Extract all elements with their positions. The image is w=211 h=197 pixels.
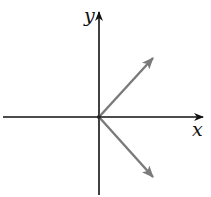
x-axis-label: x: [192, 118, 203, 140]
coordinate-diagram: y x: [0, 0, 211, 197]
lower-vector-arrow: [99, 117, 153, 177]
origin-point: [97, 115, 101, 119]
upper-vector-arrow: [99, 58, 153, 117]
y-axis-label: y: [83, 4, 95, 26]
